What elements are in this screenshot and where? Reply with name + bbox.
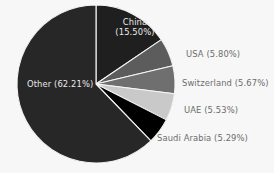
pie-chart-canvas (0, 0, 274, 173)
pie-slices-group (17, 5, 175, 163)
pie-chart: China (15.50%) USA (5.80%) Switzerland (… (0, 0, 274, 173)
